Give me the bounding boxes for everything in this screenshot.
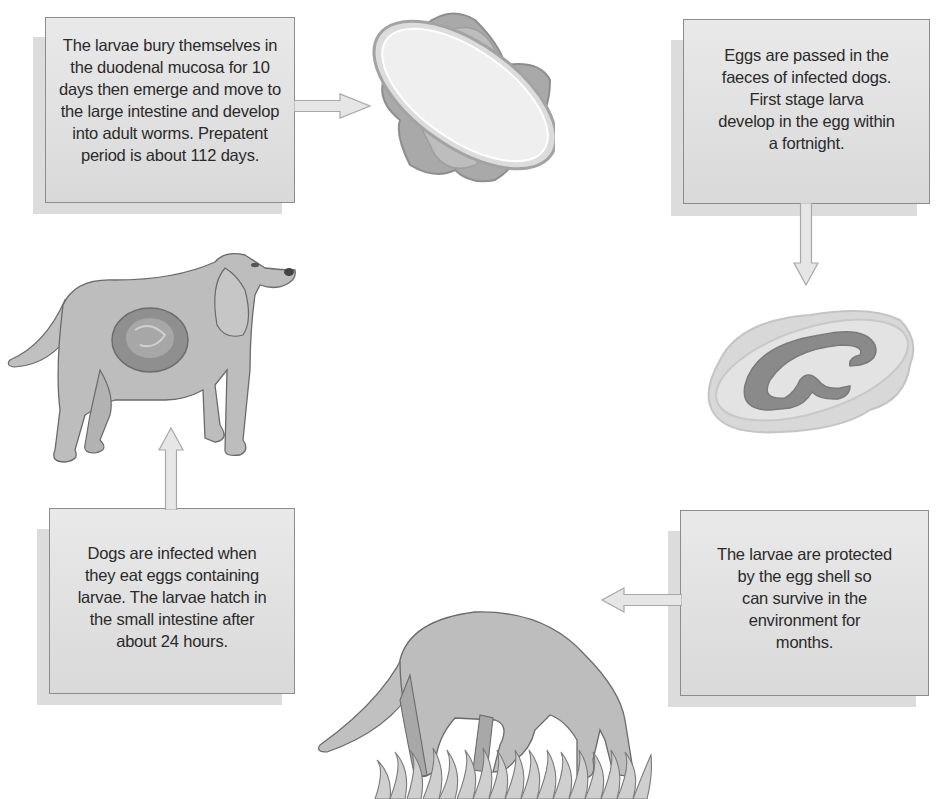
arrow-down-icon bbox=[792, 203, 820, 287]
step-box-infection: Dogs are infected when they eat eggs con… bbox=[49, 508, 295, 694]
infected-dog-icon bbox=[5, 250, 305, 475]
step-text-environment-survival: The larvae are protected by the egg shel… bbox=[717, 543, 892, 653]
step-text-infection: Dogs are infected when they eat eggs con… bbox=[78, 542, 267, 652]
step-box-adult-development: The larvae bury themselves in the duoden… bbox=[45, 17, 295, 203]
step-text-adult-development: The larvae bury themselves in the duoden… bbox=[59, 34, 281, 166]
step-text-eggs-passed: Eggs are passed in the faeces of infecte… bbox=[718, 44, 895, 154]
unembryonated-egg-icon bbox=[355, 5, 555, 190]
grazing-dog-icon bbox=[315, 600, 660, 799]
embryonated-egg-icon bbox=[700, 300, 920, 440]
step-box-eggs-passed: Eggs are passed in the faeces of infecte… bbox=[683, 19, 930, 204]
step-box-environment-survival: The larvae are protected by the egg shel… bbox=[680, 510, 929, 696]
